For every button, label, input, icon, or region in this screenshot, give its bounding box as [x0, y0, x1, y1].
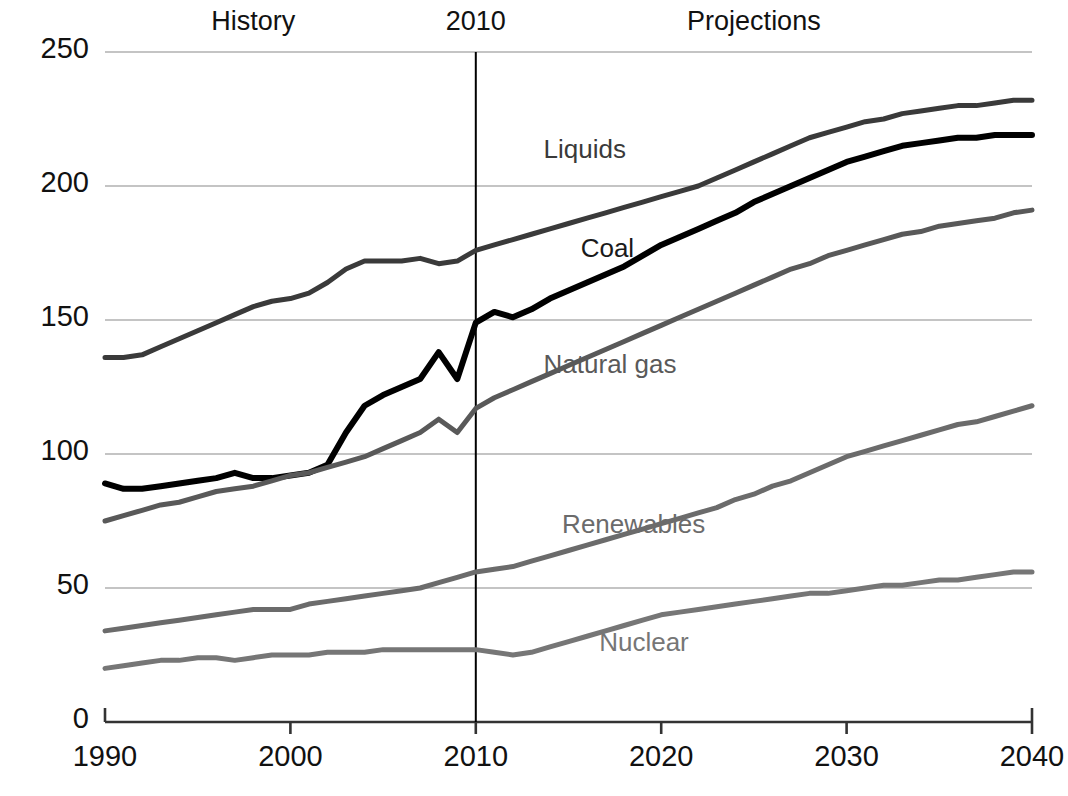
y-axis-tick-label-200: 200 [41, 166, 89, 199]
axis-lines-group [105, 708, 1032, 722]
gridlines-group [105, 52, 1032, 588]
series-label-nuclear: Nuclear [599, 627, 689, 658]
annotation-divider-year: 2010 [326, 6, 626, 37]
series-label-liquids: Liquids [544, 134, 626, 165]
x-axis-tick-label-2000: 2000 [215, 740, 365, 773]
x-axis-tick-label-1990: 1990 [30, 740, 180, 773]
x-axis-tick-label-2020: 2020 [586, 740, 736, 773]
series-label-coal: Coal [581, 233, 634, 264]
y-axis-tick-label-150: 150 [41, 300, 89, 333]
series-label-renewables: Renewables [562, 509, 705, 540]
y-axis-tick-label-100: 100 [41, 434, 89, 467]
y-axis-tick-label-250: 250 [41, 32, 89, 65]
x-axis-tick-label-2040: 2040 [957, 740, 1068, 773]
x-axis-tick-label-2010: 2010 [401, 740, 551, 773]
y-axis-tick-label-50: 50 [57, 568, 89, 601]
annotation-projections: Projections [604, 6, 904, 37]
y-axis-tick-label-0: 0 [73, 702, 89, 735]
series-label-natural-gas: Natural gas [544, 349, 677, 380]
x-axis-tick-label-2030: 2030 [772, 740, 922, 773]
series-line-nuclear [105, 572, 1032, 668]
